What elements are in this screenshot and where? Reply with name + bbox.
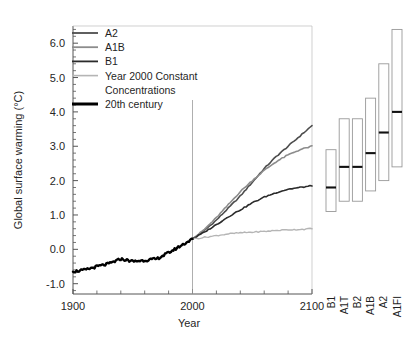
scenario-bar-range-b2	[352, 119, 362, 201]
x-tick-label: 2100	[300, 300, 324, 312]
legend-label-b1: B1	[105, 55, 118, 67]
legend-label-year-2000-constant: Year 2000 Constant	[105, 70, 198, 82]
scenario-bar-label-b2: B2	[352, 296, 363, 309]
y-tick-label: -1.0	[46, 278, 65, 290]
scenario-bar-label-a2: A2	[378, 296, 389, 309]
y-axis-title: Global surface warming (°C)	[12, 91, 24, 229]
legend-label-20th-century: 20th century	[105, 98, 164, 110]
y-tick-label: 1.0	[50, 209, 65, 221]
chart-figure: -1.00.01.02.03.04.05.06.0 190020002100 Y…	[0, 0, 420, 342]
y-tick-label: 2.0	[50, 175, 65, 187]
scenario-bar-label-a1t: A1T	[339, 296, 350, 314]
y-tick-label: 3.0	[50, 140, 65, 152]
legend-label-a2: A2	[105, 27, 118, 39]
legend-label-concentrations: Concentrations	[105, 84, 176, 96]
x-tick-label: 1900	[61, 300, 85, 312]
y-tick-label: 5.0	[50, 72, 65, 84]
scenario-bar-range-a1t	[339, 119, 349, 201]
climate-projection-chart: -1.00.01.02.03.04.05.06.0 190020002100 Y…	[0, 0, 420, 342]
scenario-bar-label-b1: B1	[326, 296, 337, 309]
x-tick-label: 2000	[180, 300, 204, 312]
scenario-bar-range-a1b	[366, 98, 376, 191]
y-tick-label: 4.0	[50, 106, 65, 118]
scenario-bar-range-a1fi	[392, 29, 402, 166]
legend-label-a1b: A1B	[105, 41, 125, 53]
x-axis-title: Year	[178, 317, 201, 329]
scenario-bar-range-a2	[379, 64, 389, 181]
scenario-bar-label-a1b: A1B	[365, 296, 376, 315]
y-tick-label: 6.0	[50, 37, 65, 49]
scenario-bar-label-a1fi: A1FI	[392, 296, 403, 317]
y-tick-label: 0.0	[50, 243, 65, 255]
scenario-bar-range-b1	[326, 150, 336, 212]
